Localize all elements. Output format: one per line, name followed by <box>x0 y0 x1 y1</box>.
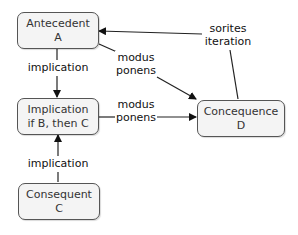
edge-sorites-upper <box>99 31 202 34</box>
edge-label-sorites-iteration: sorites iteration <box>202 22 254 48</box>
node-implication-rule: if B, then C <box>27 117 88 131</box>
node-consequent-title: Consequent <box>26 188 92 202</box>
node-concequence-letter: D <box>237 119 245 133</box>
edge-label-implication-top: implication <box>22 61 94 74</box>
node-concequence-title: Concequence <box>204 105 279 119</box>
edge-label-modus-ponens-middle: modus ponens <box>115 98 157 124</box>
node-consequent-letter: C <box>55 202 63 216</box>
edge-sorites-lower <box>230 50 238 99</box>
edge-antecedent-modus-lower <box>157 77 196 99</box>
node-antecedent-letter: A <box>54 31 62 45</box>
node-antecedent-a[interactable]: Antecedent A <box>17 12 99 49</box>
node-consequent-c[interactable]: Consequent C <box>18 183 100 220</box>
node-antecedent-title: Antecedent <box>26 17 89 31</box>
node-implication-title: Implication <box>28 103 89 117</box>
edge-label-implication-bottom: implication <box>22 157 94 170</box>
node-concequence-d[interactable]: Concequence D <box>197 100 285 137</box>
node-implication[interactable]: Implication if B, then C <box>17 98 99 135</box>
edge-label-modus-ponens-top: modus ponens <box>115 51 157 77</box>
